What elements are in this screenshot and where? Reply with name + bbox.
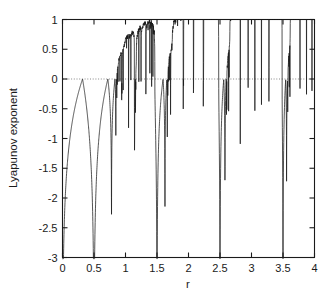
y-tick-label: -3: [48, 252, 58, 264]
y-tick-label: 0.5: [42, 43, 57, 55]
y-tick-label: 1: [51, 14, 57, 26]
y-tick-label: -1: [48, 133, 58, 145]
x-tick-label: 1: [122, 262, 128, 274]
x-tick-label: 2.5: [212, 262, 227, 274]
y-tick-label: -2.5: [39, 222, 58, 234]
x-tick-label: 0.5: [86, 262, 101, 274]
y-tick-label: 0: [51, 73, 57, 85]
x-axis-tick-labels: 00.511.522.533.54: [59, 262, 317, 274]
y-axis-title: Lyapunov exponent: [7, 87, 19, 188]
x-tick-label: 2: [185, 262, 191, 274]
y-tick-label: -2: [48, 192, 58, 204]
x-tick-label: 1.5: [149, 262, 164, 274]
x-tick-label: 3.5: [275, 262, 290, 274]
y-tick-label: -0.5: [39, 103, 58, 115]
y-tick-label: -1.5: [39, 162, 58, 174]
x-tick-label: 0: [59, 262, 65, 274]
x-tick-label: 4: [311, 262, 317, 274]
x-tick-label: 3: [248, 262, 254, 274]
lyapunov-exponent-chart: 00.511.522.533.54 -3-2.5-2-1.5-1-0.500.5…: [0, 0, 336, 297]
x-axis-title: r: [186, 278, 190, 290]
